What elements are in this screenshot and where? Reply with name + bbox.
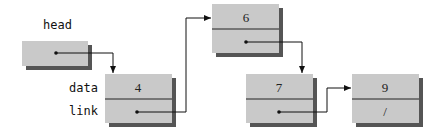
node-data: 6 [243, 10, 250, 25]
link-field-label: link [69, 104, 99, 118]
linked-list-diagram: head data link 4 6 [0, 0, 444, 137]
node-6: 6 [212, 4, 283, 57]
node-data: 4 [135, 80, 142, 95]
node-9: 9 / [352, 74, 423, 127]
node-4: 4 [105, 74, 176, 127]
null-link: / [383, 104, 387, 119]
node-7: 7 [246, 74, 317, 127]
data-field-label: data [69, 81, 98, 95]
node-data: 7 [276, 80, 283, 95]
head-label: head [43, 18, 72, 32]
node-data: 9 [382, 80, 389, 95]
head-pointer-box [22, 41, 92, 70]
